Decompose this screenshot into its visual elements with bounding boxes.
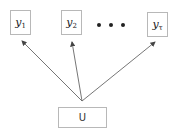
node-y1: y1 bbox=[10, 10, 31, 35]
node-ytau-label: yτ bbox=[152, 18, 162, 32]
ellipsis-dot bbox=[121, 23, 125, 27]
node-y2: y2 bbox=[61, 10, 82, 35]
ellipsis-dot bbox=[109, 23, 113, 27]
arrow-to-ytau bbox=[82, 42, 155, 101]
node-y1-label: y1 bbox=[15, 16, 26, 30]
node-u: U bbox=[58, 107, 107, 128]
ellipsis-dot bbox=[97, 23, 101, 27]
node-ytau: yτ bbox=[147, 12, 168, 37]
node-u-label: U bbox=[79, 112, 86, 123]
node-y2-label: y2 bbox=[66, 16, 77, 30]
